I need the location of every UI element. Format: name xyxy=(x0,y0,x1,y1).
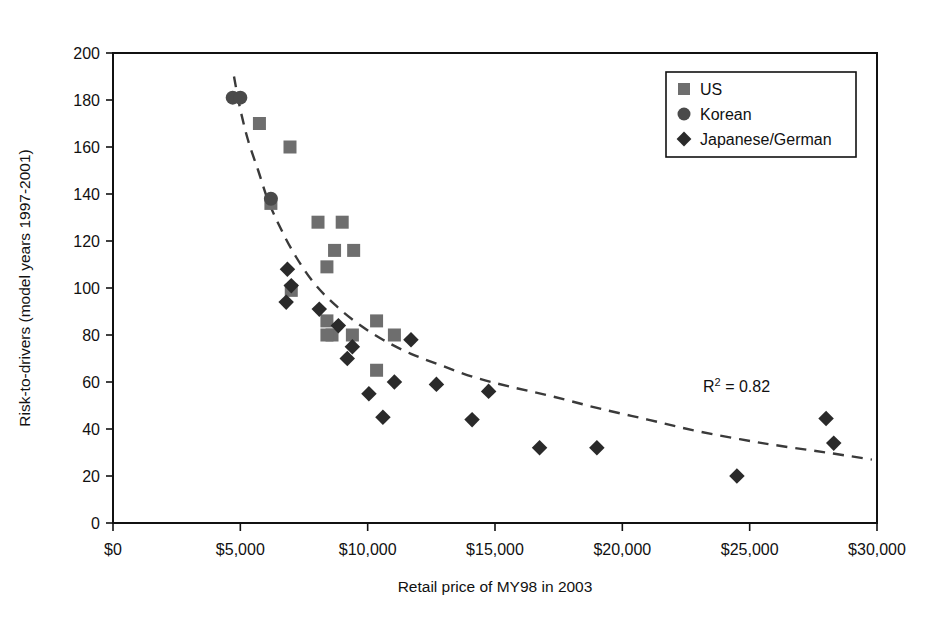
y-tick-label: 60 xyxy=(82,374,100,391)
scatter-plot-figure: 020406080100120140160180200 $0$5,000$10,… xyxy=(0,0,941,624)
data-point xyxy=(347,244,360,257)
data-point xyxy=(320,260,333,273)
x-tick-label: $10,000 xyxy=(339,541,397,558)
legend-label: Korean xyxy=(700,106,752,123)
square-icon xyxy=(678,83,690,95)
y-tick-label: 20 xyxy=(82,468,100,485)
y-tick-label: 0 xyxy=(91,515,100,532)
legend-item-japanese-german[interactable]: Japanese/German xyxy=(677,131,832,148)
data-point xyxy=(233,91,247,105)
r2-base: R xyxy=(703,378,715,395)
x-axis-title: Retail price of MY98 in 2003 xyxy=(398,578,593,595)
y-tick-label: 160 xyxy=(73,139,100,156)
y-tick-label: 180 xyxy=(73,92,100,109)
legend-label: US xyxy=(700,81,722,98)
chart-canvas: 020406080100120140160180200 $0$5,000$10,… xyxy=(0,0,941,624)
r2-value: = 0.82 xyxy=(721,378,770,395)
data-point xyxy=(336,216,349,229)
legend-label: Japanese/German xyxy=(700,131,832,148)
y-tick-label: 200 xyxy=(73,45,100,62)
x-tick-label: $0 xyxy=(104,541,122,558)
x-tick-label: $20,000 xyxy=(593,541,651,558)
y-tick-label: 140 xyxy=(73,186,100,203)
y-tick-label: 120 xyxy=(73,233,100,250)
data-point xyxy=(388,329,401,342)
data-point xyxy=(328,244,341,257)
y-axis-title: Risk-to-drivers (model years 1997-2001) xyxy=(16,149,33,426)
x-axis-ticks: $0$5,000$10,000$15,000$20,000$25,000$30,… xyxy=(104,523,906,558)
x-tick-label: $25,000 xyxy=(721,541,779,558)
data-point xyxy=(320,329,333,342)
legend: USKoreanJapanese/German xyxy=(666,72,856,157)
x-tick-label: $30,000 xyxy=(848,541,906,558)
r-squared-annotation: R2 = 0.82 xyxy=(703,376,770,395)
data-point xyxy=(370,314,383,327)
x-tick-label: $15,000 xyxy=(466,541,524,558)
y-tick-label: 80 xyxy=(82,327,100,344)
data-point xyxy=(312,216,325,229)
y-tick-label: 100 xyxy=(73,280,100,297)
data-point xyxy=(253,117,266,130)
y-axis-ticks: 020406080100120140160180200 xyxy=(73,45,113,532)
data-point xyxy=(283,141,296,154)
data-point xyxy=(264,192,278,206)
data-point xyxy=(370,364,383,377)
circle-icon xyxy=(678,108,691,121)
y-tick-label: 40 xyxy=(82,421,100,438)
x-tick-label: $5,000 xyxy=(216,541,265,558)
